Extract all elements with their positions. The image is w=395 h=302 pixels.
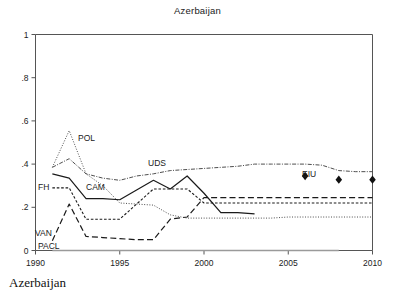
series-line-fh	[52, 188, 372, 219]
series-annotation-uds: UDS	[148, 158, 166, 168]
series-annotation-fh: FH	[38, 182, 49, 192]
series-line-pol	[52, 131, 372, 218]
chart-plot-area: 0.2.4.6.8119901995200020052010 POLUDSCAM…	[0, 0, 395, 302]
figure-caption: Azerbaijan	[9, 275, 66, 291]
series-annotation-van: VAN	[35, 228, 52, 238]
y-tick-label: .2	[21, 202, 28, 212]
series-line-cam	[52, 174, 254, 214]
annotation-layer: POLUDSCAMFHVANPACLEIU	[35, 133, 316, 251]
marker-eiu	[369, 175, 376, 183]
y-tick-label: 1	[24, 30, 29, 40]
y-tick-label: .4	[21, 159, 28, 169]
marker-eiu	[336, 175, 343, 183]
series-annotation-pol: POL	[78, 133, 95, 143]
chart-figure: Azerbaijan 0.2.4.6.811990199520002005201…	[0, 0, 395, 302]
series-annotation-cam: CAM	[86, 182, 105, 192]
x-tick-label: 1995	[110, 258, 129, 268]
y-tick-label: .6	[21, 116, 28, 126]
series-annotation-pacl: PACL	[38, 241, 60, 251]
x-tick-label: 2005	[279, 258, 298, 268]
x-tick-label: 2010	[363, 258, 382, 268]
series-annotation-eiu: EIU	[302, 169, 316, 179]
x-tick-label: 1990	[26, 258, 45, 268]
y-tick-label: 0	[24, 246, 29, 256]
series-line-uds	[52, 159, 372, 181]
x-tick-label: 2000	[195, 258, 214, 268]
axes-layer: 0.2.4.6.8119901995200020052010	[21, 30, 382, 268]
y-tick-label: .8	[21, 73, 28, 83]
